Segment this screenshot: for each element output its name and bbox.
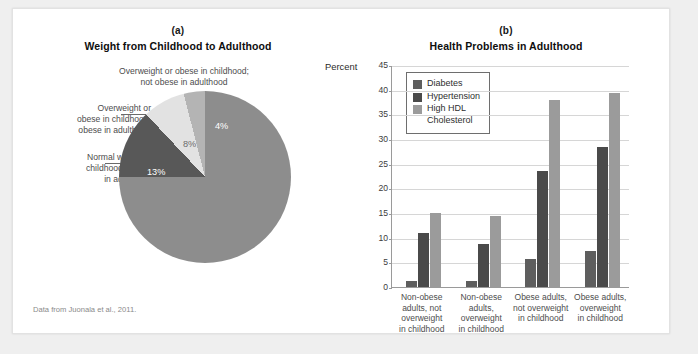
legend-item: Hypertension <box>413 91 480 103</box>
legend-swatch-icon <box>413 93 422 102</box>
y-tick-label: 5 <box>366 257 388 267</box>
y-tick-label: 30 <box>366 134 388 144</box>
y-tick-label: 25 <box>366 159 388 169</box>
gridline <box>392 189 629 190</box>
bar <box>430 213 441 287</box>
pie-slices <box>119 91 291 263</box>
gridline <box>392 91 629 92</box>
bar <box>537 171 548 287</box>
gridline <box>392 140 629 141</box>
panel-a-title: Weight from Childhood to Adulthood <box>13 40 343 52</box>
legend-label: Hypertension <box>427 91 480 103</box>
pie-callout-overweight-not-obese: Overweight or obese in childhood; not ob… <box>59 66 309 88</box>
x-category-label: Obese adults, not overweight in childhoo… <box>507 292 575 324</box>
pie-slice-label-13: 13% <box>147 167 165 177</box>
y-tick-mark <box>389 66 392 67</box>
x-category-label: Non-obese adults, overweight in childhoo… <box>448 292 516 334</box>
panel-a-pie-chart: (a) Weight from Childhood to Adulthood O… <box>13 9 343 333</box>
legend-label: Diabetes <box>427 78 463 90</box>
y-tick-mark <box>389 288 392 289</box>
y-tick-mark <box>389 239 392 240</box>
y-tick-label: 20 <box>366 183 388 193</box>
y-tick-label: 15 <box>366 208 388 218</box>
source-note: Data from Juonala et al., 2011. <box>33 305 136 314</box>
panel-b-bar-chart: (b) Health Problems in Adulthood Percent… <box>343 9 669 333</box>
bar <box>418 233 429 287</box>
chart-legend: DiabetesHypertensionHigh HDL Cholesterol <box>406 72 490 134</box>
y-tick-mark <box>389 165 392 166</box>
bar <box>478 244 489 287</box>
legend-item: Diabetes <box>413 78 480 90</box>
pie-slice-label-8: 8% <box>183 139 196 149</box>
panel-b-letter: (b) <box>343 25 669 36</box>
figure-card: (a) Weight from Childhood to Adulthood O… <box>12 8 670 334</box>
y-tick-label: 45 <box>366 60 388 70</box>
pie-slice-label-4: 4% <box>215 121 228 131</box>
bar <box>406 281 417 287</box>
gridline <box>392 115 629 116</box>
legend-swatch-icon <box>413 105 422 114</box>
gridline <box>392 214 629 215</box>
panel-b-title: Health Problems in Adulthood <box>343 40 669 52</box>
bar-plot-area: DiabetesHypertensionHigh HDL Cholesterol… <box>391 66 629 288</box>
y-tick-mark <box>389 140 392 141</box>
bar <box>490 216 501 287</box>
bar <box>466 281 477 287</box>
x-category-label: Obese adults, overweight in childhood <box>567 292 635 324</box>
y-tick-mark <box>389 91 392 92</box>
y-tick-label: 40 <box>366 85 388 95</box>
y-axis-title: Percent <box>325 61 357 72</box>
x-category-label: Non-obese adults, not overweight in chil… <box>388 292 456 334</box>
y-tick-label: 0 <box>366 282 388 292</box>
y-tick-mark <box>389 189 392 190</box>
gridline <box>392 66 629 67</box>
panel-a-letter: (a) <box>13 25 343 36</box>
gridline <box>392 165 629 166</box>
pie-chart-graphic: 4% 8% 13% 75% Normal weight in childhood… <box>119 91 291 263</box>
bar <box>549 100 560 287</box>
y-tick-mark <box>389 214 392 215</box>
bar <box>609 93 620 287</box>
legend-swatch-icon <box>413 80 422 89</box>
y-tick-mark <box>389 115 392 116</box>
bar <box>597 147 608 287</box>
pie-slice-label-75: 75% Normal weight in childhood; not obes… <box>135 287 295 309</box>
y-tick-label: 10 <box>366 233 388 243</box>
bar <box>585 251 596 288</box>
bar <box>525 259 536 287</box>
y-tick-mark <box>389 263 392 264</box>
y-tick-label: 35 <box>366 109 388 119</box>
